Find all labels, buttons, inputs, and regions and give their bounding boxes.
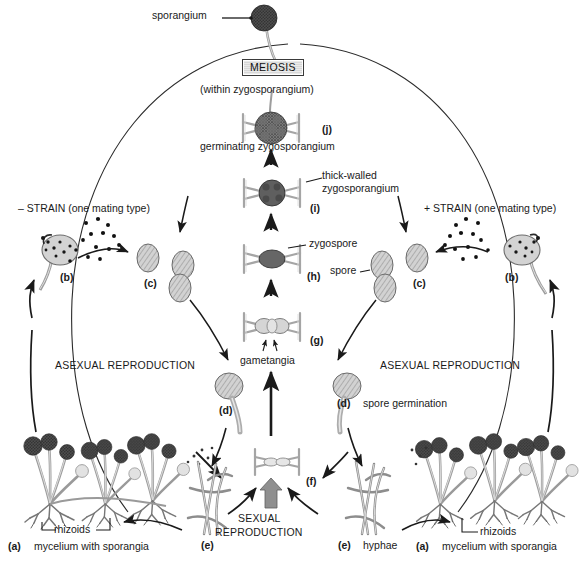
label-spore: spore bbox=[330, 265, 356, 277]
label-hyphae: hyphae bbox=[363, 540, 397, 552]
gametangia-pointer-arrows bbox=[263, 340, 277, 351]
life-cycle-diagram: sporangium MEIOSIS (within zygosporangiu… bbox=[0, 0, 580, 562]
label-asexual-reproduction-right: ASEXUAL REPRODUCTION bbox=[380, 360, 520, 372]
label-thick-walled-line2: zygosporangium bbox=[322, 183, 399, 195]
arrow-asexual-right-stem bbox=[548, 330, 553, 432]
released-spores-right bbox=[443, 217, 490, 261]
mycelium-a-right-art bbox=[411, 434, 578, 528]
hyphae-fusion-art bbox=[255, 449, 299, 475]
sexual-reproduction-arrows bbox=[228, 478, 318, 514]
label-rhizoids-right: rhizoids bbox=[480, 526, 516, 538]
sexual-up-arrow bbox=[260, 478, 282, 508]
label-sporangium: sporangium bbox=[152, 10, 207, 22]
mycelium-a-left-art bbox=[24, 434, 214, 529]
stage-key-g: (g) bbox=[310, 335, 323, 347]
label-sexual-line1: SEXUAL bbox=[238, 513, 281, 525]
zygospore-leader-line bbox=[288, 245, 306, 248]
arrow-e-right-to-f bbox=[323, 452, 348, 478]
stage-key-j: (j) bbox=[322, 124, 332, 136]
label-asexual-reproduction-left: ASEXUAL REPRODUCTION bbox=[55, 360, 195, 372]
spores-c-right-art bbox=[371, 244, 428, 302]
meiosis-box: MEIOSIS bbox=[242, 59, 304, 76]
arrow-asexual-right-up bbox=[550, 280, 554, 318]
label-meiosis-sublabel: (within zygosporangium) bbox=[200, 84, 314, 96]
label-rhizoids-left: rhizoids bbox=[54, 524, 90, 536]
stage-key-i: (i) bbox=[310, 203, 320, 215]
arrow-spore-release-right bbox=[436, 247, 488, 252]
label-gametangia: gametangia bbox=[240, 355, 295, 367]
arrow-c-left-to-d-left bbox=[190, 300, 228, 360]
thick-walled-zygosporangium-art bbox=[244, 179, 300, 207]
stage-key-d-left: (d) bbox=[219, 405, 232, 417]
arrow-into-plus-strain bbox=[398, 196, 406, 232]
spore-leader-line bbox=[360, 270, 370, 272]
sporangium-leader-dot bbox=[249, 16, 253, 20]
hyphae-e-left-art bbox=[188, 462, 232, 534]
label-mycelium-left: mycelium with sporangia bbox=[34, 541, 149, 553]
spores-c-left-art bbox=[137, 244, 194, 302]
sporangium-head bbox=[251, 5, 277, 31]
label-zygospore: zygospore bbox=[309, 238, 357, 250]
rhizoid-leader-right bbox=[462, 518, 478, 532]
stage-key-c-right: (c) bbox=[413, 278, 426, 290]
gametangia-art bbox=[244, 313, 300, 341]
stage-key-f: (f) bbox=[306, 476, 317, 488]
stage-key-e-right: (e) bbox=[338, 540, 351, 552]
stage-key-a-right: (a) bbox=[416, 541, 429, 553]
arrow-asexual-left-up bbox=[30, 280, 34, 318]
label-mycelium-right: mycelium with sporangia bbox=[442, 541, 557, 553]
label-thick-walled-line1: thick-walled bbox=[322, 170, 377, 182]
label-sexual-line2: REPRODUCTION bbox=[215, 527, 303, 539]
stage-key-e-left: (e) bbox=[201, 540, 214, 552]
arrow-d-left-to-e-left bbox=[212, 428, 226, 466]
arrow-spore-release-left bbox=[78, 249, 128, 258]
arrow-asexual-left-stem bbox=[31, 330, 36, 432]
hyphae-e-right-art bbox=[346, 462, 390, 534]
stage-key-c-left: (c) bbox=[144, 278, 157, 290]
thick-walled-leader-line bbox=[306, 178, 322, 182]
label-germinating-zygosporangium: germinating zygosporangium bbox=[200, 141, 335, 153]
stage-key-d-right: (d) bbox=[337, 398, 350, 410]
stage-key-b-left: (b) bbox=[60, 272, 73, 284]
stage-key-a-left: (a) bbox=[8, 541, 21, 553]
spore-germination-d-left-art bbox=[215, 373, 243, 432]
label-spore-germination: spore germination bbox=[363, 398, 447, 410]
arrow-e-left-to-a-left bbox=[124, 520, 182, 530]
arrow-into-minus-strain bbox=[180, 196, 188, 232]
arrow-c-right-to-d-right bbox=[338, 300, 376, 360]
arrow-d-right-to-e-right bbox=[348, 428, 362, 466]
stage-key-b-right: (b) bbox=[505, 272, 518, 284]
stage-key-h: (h) bbox=[307, 271, 320, 283]
zygospore-art bbox=[244, 245, 300, 273]
label-minus-strain: – STRAIN (one mating type) bbox=[18, 203, 150, 215]
top-sporangium-art bbox=[251, 5, 277, 62]
label-plus-strain: + STRAIN (one mating type) bbox=[424, 203, 556, 215]
